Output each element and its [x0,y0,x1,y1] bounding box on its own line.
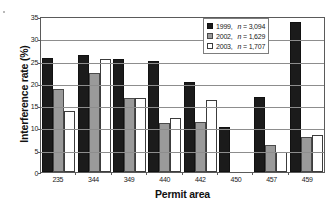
y-axis-tick [38,63,41,64]
gridline [41,152,324,153]
bar [170,118,181,172]
x-tick-label: 442 [183,176,219,183]
y-tick-label: 5 [18,147,38,154]
bar [78,55,89,172]
bar [64,111,75,172]
gridline [41,63,324,64]
legend-swatch-2003-icon [207,43,213,49]
bar [42,58,53,172]
x-tick-label: 440 [147,176,183,183]
bar [135,98,146,172]
bar [113,59,124,172]
x-axis-title: Permit area [40,188,325,200]
y-tick-label: 25 [18,58,38,65]
x-tick-label: 459 [289,176,325,183]
y-axis-tick [38,152,41,153]
legend-item-1999: 1999, n = 3,094 [207,21,265,31]
scan-artifact [3,11,5,13]
bar [100,59,111,172]
bar [219,127,230,172]
gridline [41,40,324,41]
legend-label-1999: 1999, [216,23,233,30]
y-axis-tick [38,107,41,108]
x-axis-tick [288,172,289,175]
legend-label-2003: 2003, [216,43,233,50]
x-tick-label: 344 [76,176,112,183]
bar [312,135,323,172]
bar [148,61,159,172]
legend-swatch-2002-icon [207,33,213,39]
legend-item-2002: 2002, n = 1,629 [207,31,265,41]
gridline [41,129,324,130]
legend-n-2003: n = 1,707 [238,43,266,50]
y-axis-tick [38,40,41,41]
legend: 1999, n = 3,094 2002, n = 1,629 2003, n … [203,18,269,54]
x-axis-tick [111,172,112,175]
y-tick-label: 30 [18,36,38,43]
x-axis-tick [146,172,147,175]
y-tick-label: 15 [18,103,38,110]
bar [276,152,287,172]
x-tick-label: 457 [254,176,290,183]
legend-label-2002: 2002, [216,33,233,40]
x-tick-label: 450 [218,176,254,183]
bar [290,22,301,172]
y-axis-tick [38,173,41,174]
x-axis-tick [75,172,76,175]
gridline [41,85,324,86]
y-tick-label: 35 [18,14,38,21]
x-tick-label: 235 [40,176,76,183]
bar [124,98,135,172]
y-axis-tick [38,85,41,86]
bar [206,100,217,172]
gridline [41,107,324,108]
legend-n-1999: n = 3,094 [238,23,266,30]
y-tick-label: 20 [18,80,38,87]
bar [89,73,100,172]
y-tick-label: 0 [18,170,38,177]
plot-area [40,17,325,173]
y-axis-tick [38,129,41,130]
legend-n-2002: n = 1,629 [238,33,266,40]
y-tick-label: 10 [18,125,38,132]
bar [184,82,195,172]
y-axis-tick [38,18,41,19]
bar [265,145,276,172]
x-axis-tick-labels: 235344349440442450457459 [40,176,325,183]
legend-item-2003: 2003, n = 1,707 [207,41,265,51]
x-axis-tick [217,172,218,175]
bar-chart: Interference rate (%) 05101520253035 235… [0,0,335,208]
bar [301,137,312,172]
legend-swatch-1999-icon [207,23,213,29]
y-axis-tick-labels: 05101520253035 [18,12,38,178]
x-axis-tick [252,172,253,175]
x-axis-tick [182,172,183,175]
x-tick-label: 349 [111,176,147,183]
